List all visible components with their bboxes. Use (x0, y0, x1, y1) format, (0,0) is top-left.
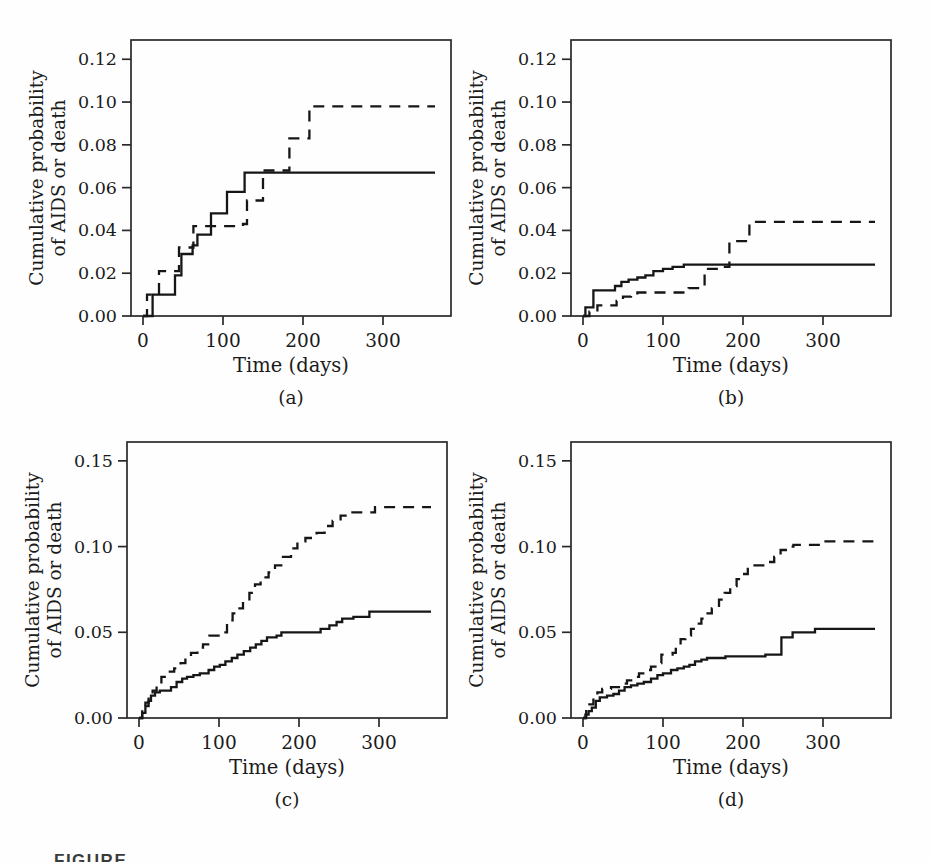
x-tick-label: 0 (133, 732, 145, 753)
y-axis-label-line2: of AIDS or death (48, 99, 69, 256)
x-tick-label: 200 (725, 732, 760, 753)
solid-curve (583, 265, 875, 316)
x-tick-label: 300 (365, 330, 400, 351)
plot-border (571, 40, 891, 316)
x-tick-label: 300 (805, 330, 840, 351)
solid-curve (139, 612, 431, 718)
x-axis-label: Time (days) (673, 354, 789, 377)
y-tick-label: 0.12 (518, 49, 557, 69)
x-tick-label: 0 (137, 330, 149, 351)
y-tick-label: 0.06 (78, 178, 117, 198)
panel-a: 0.000.020.040.060.080.100.120100200300Cu… (26, 8, 466, 413)
y-tick-label: 0.15 (74, 451, 113, 471)
x-tick-label: 100 (201, 732, 236, 753)
figure-caption-partial: FIGURE (54, 851, 274, 862)
y-tick-label: 0.05 (518, 622, 557, 642)
y-tick-label: 0.00 (78, 306, 117, 326)
x-tick-label: 100 (645, 330, 680, 351)
solid-curve (143, 173, 435, 316)
x-axis: 0100200300 (577, 316, 841, 351)
y-tick-label: 0.12 (78, 49, 117, 69)
y-tick-label: 0.10 (78, 92, 117, 112)
x-axis: 0100200300 (577, 718, 841, 753)
x-axis-label: Time (days) (233, 354, 349, 377)
y-axis-label: Cumulative probabilityof AIDS or death (22, 472, 65, 688)
plot-border (127, 442, 447, 718)
y-axis-label: Cumulative probabilityof AIDS or death (26, 70, 69, 286)
y-axis: 0.000.020.040.060.080.100.12 (78, 49, 131, 326)
dashed-curve (583, 222, 875, 316)
y-tick-label: 0.02 (518, 263, 557, 283)
y-axis-label-line1: Cumulative probability (466, 472, 487, 688)
y-axis: 0.000.050.100.15 (74, 451, 127, 728)
panel-a-chart: 0.000.020.040.060.080.100.120100200300Cu… (26, 8, 466, 413)
y-tick-label: 0.10 (74, 537, 113, 557)
panel-b: 0.000.020.040.060.080.100.120100200300Cu… (466, 8, 906, 413)
y-tick-label: 0.00 (518, 306, 557, 326)
panel-d-chart: 0.000.050.100.150100200300Cumulative pro… (466, 410, 906, 815)
x-tick-label: 100 (205, 330, 240, 351)
panel-caption: (a) (278, 387, 303, 408)
y-tick-label: 0.08 (78, 135, 117, 155)
plot-border (571, 442, 891, 718)
y-axis-label-line1: Cumulative probability (26, 70, 47, 286)
x-axis: 0100200300 (133, 718, 397, 753)
x-tick-label: 200 (285, 330, 320, 351)
y-axis-label-line1: Cumulative probability (22, 472, 43, 688)
y-tick-label: 0.10 (518, 92, 557, 112)
x-axis-label: Time (days) (229, 756, 345, 779)
y-tick-label: 0.08 (518, 135, 557, 155)
y-tick-label: 0.06 (518, 178, 557, 198)
y-axis-label-line2: of AIDS or death (44, 501, 65, 658)
y-axis-label: Cumulative probabilityof AIDS or death (466, 70, 509, 286)
panel-c-chart: 0.000.050.100.150100200300Cumulative pro… (22, 410, 462, 815)
y-axis-label: Cumulative probabilityof AIDS or death (466, 472, 509, 688)
x-tick-label: 0 (577, 732, 589, 753)
x-tick-label: 100 (645, 732, 680, 753)
figure-page: 0.000.020.040.060.080.100.120100200300Cu… (0, 0, 931, 862)
x-tick-label: 300 (361, 732, 396, 753)
solid-curve (583, 629, 875, 718)
x-axis-label: Time (days) (673, 756, 789, 779)
y-tick-label: 0.00 (518, 708, 557, 728)
x-tick-label: 200 (725, 330, 760, 351)
y-tick-label: 0.15 (518, 451, 557, 471)
y-axis: 0.000.020.040.060.080.100.12 (518, 49, 571, 326)
y-axis-label-line2: of AIDS or death (488, 501, 509, 658)
y-tick-label: 0.04 (78, 220, 117, 240)
panel-caption: (b) (718, 387, 744, 408)
y-axis: 0.000.050.100.15 (518, 451, 571, 728)
panel-caption: (c) (275, 789, 300, 810)
y-tick-label: 0.00 (74, 708, 113, 728)
panel-caption: (d) (718, 789, 744, 810)
x-axis: 0100200300 (137, 316, 401, 351)
y-axis-label-line2: of AIDS or death (488, 99, 509, 256)
panel-d: 0.000.050.100.150100200300Cumulative pro… (466, 410, 906, 815)
x-tick-label: 200 (281, 732, 316, 753)
panel-c: 0.000.050.100.150100200300Cumulative pro… (22, 410, 462, 815)
panel-b-chart: 0.000.020.040.060.080.100.120100200300Cu… (466, 8, 906, 413)
y-axis-label-line1: Cumulative probability (466, 70, 487, 286)
y-tick-label: 0.10 (518, 537, 557, 557)
x-tick-label: 0 (577, 330, 589, 351)
y-tick-label: 0.05 (74, 622, 113, 642)
y-tick-label: 0.02 (78, 263, 117, 283)
x-tick-label: 300 (805, 732, 840, 753)
y-tick-label: 0.04 (518, 220, 557, 240)
dashed-curve (143, 106, 435, 316)
